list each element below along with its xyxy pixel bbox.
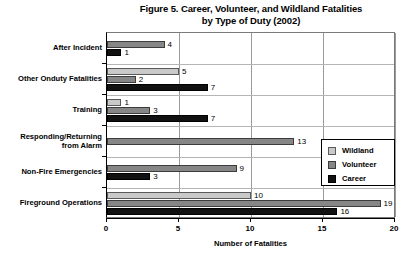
bar-volunteer-0 [107,41,165,48]
legend-swatch-career-icon [328,175,336,183]
x-axis-title: Number of Fatalities [106,239,395,248]
bar-value-label: 7 [211,115,215,123]
y-axis-label-2: Training [0,105,102,114]
bar-value-label: 3 [153,107,157,115]
x-axis-tick-15 [322,218,323,222]
gridline-10 [251,33,252,217]
chart-title-line-1: Figure 5. Career, Volunteer, and Wildlan… [140,3,363,14]
x-axis-tick-label: 0 [94,224,118,233]
x-axis-tick-label: 5 [166,224,190,233]
bar-career-2 [107,115,208,122]
bar-wildland-1 [107,68,179,75]
category-separator [107,188,394,189]
bar-wildland-2 [107,99,121,106]
legend-item-volunteer[interactable]: Volunteer [328,158,394,171]
gridline-15 [323,33,324,217]
bar-value-label: 16 [340,208,349,216]
legend-label: Career [342,174,366,183]
legend-item-career[interactable]: Career [328,172,394,185]
y-axis-label-line: Other Onduty Fatalities [0,74,102,83]
bar-value-label: 1 [124,99,128,107]
x-axis-tick-10 [250,218,251,222]
bar-value-label: 1 [124,49,128,57]
y-axis-label-line: After Incident [0,43,102,52]
category-separator [107,64,394,65]
figure-container: Figure 5. Career, Volunteer, and Wildlan… [0,0,419,257]
bar-value-label: 2 [139,76,143,84]
x-axis-tick-label: 20 [382,224,406,233]
bar-career-4 [107,173,150,180]
legend-swatch-volunteer-icon [328,161,336,169]
y-axis-label-4: Non-Fire Emergencies [0,167,102,176]
bar-career-0 [107,49,121,56]
gridline-5 [179,33,180,217]
y-axis-label-3: Responding/Returningfrom Alarm [0,132,102,150]
y-axis-label-line: Fireground Operations [0,198,102,207]
legend-label: Volunteer [342,160,376,169]
y-axis-label-line: Training [0,105,102,114]
y-axis-label-line: Responding/Returning [0,132,102,141]
y-axis-label-line: Non-Fire Emergencies [0,167,102,176]
bar-volunteer-1 [107,76,136,83]
gridline-20 [395,33,396,217]
bar-value-label: 4 [168,41,172,49]
y-axis-label-line: from Alarm [0,141,102,150]
bar-value-label: 10 [254,192,263,200]
bar-value-label: 7 [211,84,215,92]
x-axis-tick-label: 15 [310,224,334,233]
bar-value-label: 3 [153,173,157,181]
x-axis-tick-0 [106,218,107,222]
y-axis-label-0: After Incident [0,43,102,52]
chart-title: Figure 5. Career, Volunteer, and Wildlan… [106,3,396,26]
bar-volunteer-5 [107,200,381,207]
category-separator [107,95,394,96]
chart-legend: WildlandVolunteerCareer [321,139,395,186]
y-axis-label-5: Fireground Operations [0,198,102,207]
bar-volunteer-2 [107,107,150,114]
y-axis-label-1: Other Onduty Fatalities [0,74,102,83]
legend-swatch-wildland-icon [328,147,336,155]
bar-value-label: 9 [240,165,244,173]
bar-wildland-5 [107,192,251,199]
bar-career-5 [107,208,337,215]
legend-item-wildland[interactable]: Wildland [328,144,394,157]
x-axis-tick-20 [394,218,395,222]
legend-label: Wildland [342,146,374,155]
bar-value-label: 19 [384,200,393,208]
plot-area: 415271371393101916 [106,32,395,218]
chart-title-line-2: by Type of Duty (2002) [106,15,396,27]
bar-value-label: 5 [182,68,186,76]
x-axis-tick-label: 10 [238,224,262,233]
bar-volunteer-3 [107,138,294,145]
bar-value-label: 13 [297,138,306,146]
bar-career-1 [107,84,208,91]
y-axis-category-labels: After IncidentOther Onduty FatalitiesTra… [0,32,102,218]
bar-volunteer-4 [107,165,237,172]
x-axis-tick-5 [178,218,179,222]
category-separator [107,126,394,127]
